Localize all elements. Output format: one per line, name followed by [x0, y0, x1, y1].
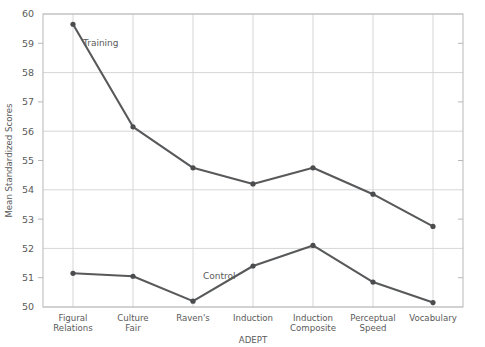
- y-axis-tick-label: 57: [22, 96, 34, 107]
- data-point-control: [70, 271, 75, 276]
- x-axis-tick-label: Raven's: [176, 313, 210, 323]
- data-point-control: [190, 299, 195, 304]
- y-axis-tick-label: 53: [22, 214, 34, 225]
- x-axis-tick-label: Fair: [125, 323, 141, 333]
- y-axis-tick-label: 59: [22, 38, 34, 49]
- data-point-control: [250, 263, 255, 268]
- line-chart: 5051525354555657585960FiguralRelationsCu…: [0, 0, 485, 347]
- y-axis-tick-label: 58: [22, 67, 34, 78]
- y-axis-tick-label: 50: [22, 301, 34, 312]
- x-axis-tick-label: Induction: [293, 313, 333, 323]
- x-axis-tick-label: Vocabulary: [409, 313, 457, 323]
- chart-canvas: 5051525354555657585960FiguralRelationsCu…: [0, 0, 485, 347]
- x-axis-tick-label: Composite: [290, 323, 336, 333]
- data-point-control: [130, 274, 135, 279]
- y-axis-tick-label: 52: [22, 243, 34, 254]
- x-axis-tick-label: Relations: [53, 323, 93, 333]
- y-axis-tick-label: 54: [22, 184, 34, 195]
- x-axis-tick-label: Figural: [59, 313, 88, 323]
- data-point-training: [430, 224, 435, 229]
- data-point-training: [370, 192, 375, 197]
- x-axis-tick-label: Induction: [233, 313, 273, 323]
- data-point-control: [310, 243, 315, 248]
- x-axis-tick-label: Speed: [360, 323, 387, 333]
- y-axis-tick-label: 55: [22, 155, 34, 166]
- y-axis-title: Mean Standardized Scores: [4, 103, 14, 218]
- series-annotation-control: Control: [203, 271, 236, 281]
- data-point-training: [70, 22, 75, 27]
- data-point-training: [130, 124, 135, 129]
- x-axis-tick-label: Culture: [117, 313, 148, 323]
- y-axis-tick-label: 51: [22, 272, 34, 283]
- y-axis-tick-label: 60: [22, 8, 34, 19]
- series-annotation-training: Training: [82, 38, 119, 48]
- data-point-training: [190, 165, 195, 170]
- x-axis-title: ADEPT: [239, 335, 268, 345]
- data-point-training: [250, 181, 255, 186]
- data-point-training: [310, 165, 315, 170]
- x-axis-tick-label: Perceptual: [350, 313, 395, 323]
- data-point-control: [370, 279, 375, 284]
- data-point-control: [430, 300, 435, 305]
- y-axis-tick-label: 56: [22, 126, 34, 137]
